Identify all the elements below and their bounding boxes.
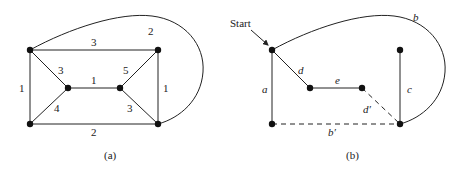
node-b-mid-left xyxy=(307,85,313,91)
weight-a-bl-ml: 4 xyxy=(54,102,60,114)
label-b-c: c xyxy=(407,83,412,95)
node-b-top-left xyxy=(269,47,275,53)
node-a-mid-right xyxy=(117,85,123,91)
caption-a: (a) xyxy=(104,149,117,162)
weight-a-top: 3 xyxy=(91,36,97,48)
weight-a-mr-tr: 5 xyxy=(123,64,129,76)
weight-a-curve: 2 xyxy=(148,25,154,37)
node-b-bottom-left xyxy=(269,121,275,127)
weight-a-mr-br: 3 xyxy=(127,102,133,114)
node-b-mid-right xyxy=(359,85,365,91)
label-b-e: e xyxy=(335,74,340,86)
start-label: Start xyxy=(230,17,251,29)
weight-a-tl-ml: 3 xyxy=(58,64,64,76)
node-a-bottom-left xyxy=(27,121,33,127)
graph-figure: 3 2 3 1 5 1 4 3 1 2 (a) Start b d e d′ a… xyxy=(0,0,468,171)
label-b-d: d xyxy=(298,64,304,76)
start-arrow xyxy=(251,30,268,45)
node-b-top-right xyxy=(397,47,403,53)
label-b-d-prime: d′ xyxy=(363,103,372,115)
label-b-curve: b xyxy=(413,11,419,23)
node-a-top-right xyxy=(155,47,161,53)
node-b-bottom-right xyxy=(397,121,403,127)
weight-a-bottom: 2 xyxy=(91,126,97,138)
label-b-a: a xyxy=(262,83,268,95)
edge-a-bl-ml xyxy=(30,88,68,124)
diagram-a: 3 2 3 1 5 1 4 3 1 2 (a) xyxy=(19,15,203,162)
node-a-top-left xyxy=(27,47,33,53)
caption-b: (b) xyxy=(346,149,359,162)
weight-a-left: 1 xyxy=(19,82,25,94)
node-a-mid-left xyxy=(65,85,71,91)
diagram-b: Start b d e d′ a c b′ (b) xyxy=(230,11,445,162)
weight-a-right: 1 xyxy=(163,82,169,94)
edge-b-d xyxy=(272,50,310,88)
edge-a-mr-br xyxy=(120,88,158,124)
node-a-bottom-right xyxy=(155,121,161,127)
weight-a-ml-mr: 1 xyxy=(91,74,97,86)
label-b-b-prime: b′ xyxy=(328,126,337,138)
